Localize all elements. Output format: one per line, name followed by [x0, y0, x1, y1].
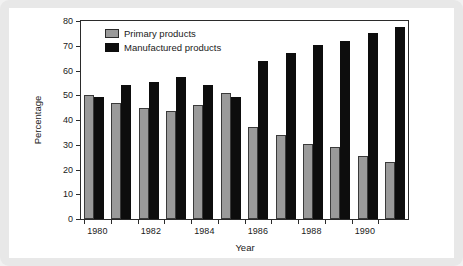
bar-manufactured: [203, 85, 213, 219]
bar-group: [84, 21, 104, 219]
legend-item-primary: Primary products: [105, 28, 221, 39]
bar-manufactured: [340, 41, 350, 219]
bar-group: [276, 21, 296, 219]
x-axis-tick: [218, 219, 219, 224]
x-axis-tick: [245, 219, 246, 224]
bar-primary: [166, 111, 176, 219]
x-axis-tick: [378, 219, 379, 224]
bar-group: [330, 21, 350, 219]
x-axis-tick: [298, 219, 299, 224]
x-axis-tick-label: 1988: [301, 226, 321, 236]
x-axis-tick-label: 1984: [194, 226, 214, 236]
y-axis-tick-label: 50: [63, 90, 73, 100]
x-axis-tick: [271, 219, 272, 224]
bar-group: [248, 21, 268, 219]
bar-manufactured: [286, 53, 296, 219]
chart-legend: Primary products Manufactured products: [105, 28, 221, 53]
x-axis-tick: [138, 219, 139, 224]
x-axis-tick: [111, 219, 112, 224]
x-axis-tick-label: 1982: [141, 226, 161, 236]
x-axis-tick: [325, 219, 326, 224]
outer-frame: Percentage Year 01020304050607080 198019…: [0, 0, 463, 266]
x-axis-tick-label: 1990: [355, 226, 375, 236]
x-axis-tick-label: 1986: [248, 226, 268, 236]
x-axis-tick: [191, 219, 192, 224]
bar-primary: [303, 144, 313, 219]
bar-manufactured: [231, 97, 241, 220]
bar-group: [303, 21, 323, 219]
x-axis-tick: [352, 219, 353, 224]
x-axis-title: Year: [235, 242, 254, 253]
x-axis-tick: [164, 219, 165, 224]
y-axis-tick-label: 60: [63, 66, 73, 76]
y-axis-tick-label: 0: [68, 214, 73, 224]
bar-group: [385, 21, 405, 219]
y-axis-tick-label: 10: [63, 189, 73, 199]
legend-item-manufactured: Manufactured products: [105, 42, 221, 53]
y-axis-tick-label: 30: [63, 140, 73, 150]
legend-swatch-manufactured: [105, 43, 119, 52]
bar-primary: [385, 162, 395, 219]
bar-primary: [193, 105, 203, 219]
bar-manufactured: [395, 27, 405, 219]
bar-primary: [84, 95, 94, 219]
chart-card: Percentage Year 01020304050607080 198019…: [9, 8, 454, 258]
bar-group: [358, 21, 378, 219]
legend-label-manufactured: Manufactured products: [124, 42, 221, 53]
bar-primary: [111, 103, 121, 219]
y-axis-tick-label: 70: [63, 41, 73, 51]
bar-group: [221, 21, 241, 219]
x-axis-tick-label: 1980: [87, 226, 107, 236]
bar-primary: [330, 147, 340, 219]
bar-manufactured: [258, 61, 268, 219]
legend-swatch-primary: [105, 29, 119, 38]
y-axis-tick-label: 20: [63, 165, 73, 175]
bar-manufactured: [149, 82, 159, 219]
bar-primary: [248, 127, 258, 219]
y-axis-tick-label: 40: [63, 115, 73, 125]
y-axis-tick: [76, 219, 81, 220]
bar-primary: [139, 108, 149, 219]
bar-manufactured: [176, 77, 186, 219]
y-axis-title: Percentage: [32, 96, 43, 145]
bar-primary: [358, 156, 368, 219]
bar-manufactured: [94, 97, 104, 220]
bar-manufactured: [368, 33, 378, 219]
bar-manufactured: [313, 45, 323, 219]
legend-label-primary: Primary products: [124, 28, 196, 39]
bar-chart: Percentage Year 01020304050607080 198019…: [9, 8, 454, 258]
bar-primary: [276, 135, 286, 219]
y-axis-tick-label: 80: [63, 16, 73, 26]
bar-primary: [221, 93, 231, 219]
bar-manufactured: [121, 85, 131, 219]
x-axis-tick: [84, 219, 85, 224]
